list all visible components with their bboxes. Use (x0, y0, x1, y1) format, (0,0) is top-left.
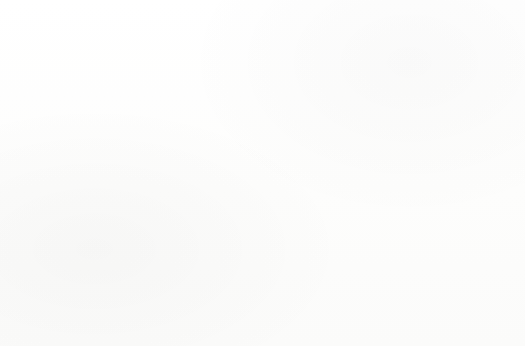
bar-chart: Scenario 1 Scenario 2 MAR 4 3 2 1 0 (0, 0, 525, 346)
legend-swatch-scenario-2 (138, 11, 145, 18)
legend-item-scenario-1[interactable]: Scenario 1 (57, 8, 122, 20)
legend-item-scenario-2[interactable]: Scenario 2 (138, 8, 203, 20)
legend-label-scenario-2: Scenario 2 (149, 8, 203, 20)
x-label-interaction-modality: Interaction modality (346, 288, 423, 312)
x-label-object-interpretation: Object interpretation (192, 288, 269, 312)
y-axis-ticks: 4 3 2 1 0 (0, 38, 462, 283)
x-label-object-perception: Object perception (38, 288, 115, 312)
x-label-unconstrained-motion: Unconstrained motion (269, 288, 346, 312)
chart-legend: Scenario 1 Scenario 2 (57, 8, 202, 20)
legend-label-scenario-1: Scenario 1 (68, 8, 122, 20)
x-label-interaction-levels-of-extent: Interaction levels of extent (423, 288, 500, 312)
bar-scenario-2-interaction-levels-of-extent[interactable] (464, 222, 483, 283)
legend-swatch-scenario-1 (57, 11, 64, 18)
watermark-label: MAR (467, 6, 507, 26)
x-axis-labels: Object perception Self-location percepti… (38, 288, 500, 312)
x-label-self-location-perception: Self-location perception (115, 288, 192, 312)
